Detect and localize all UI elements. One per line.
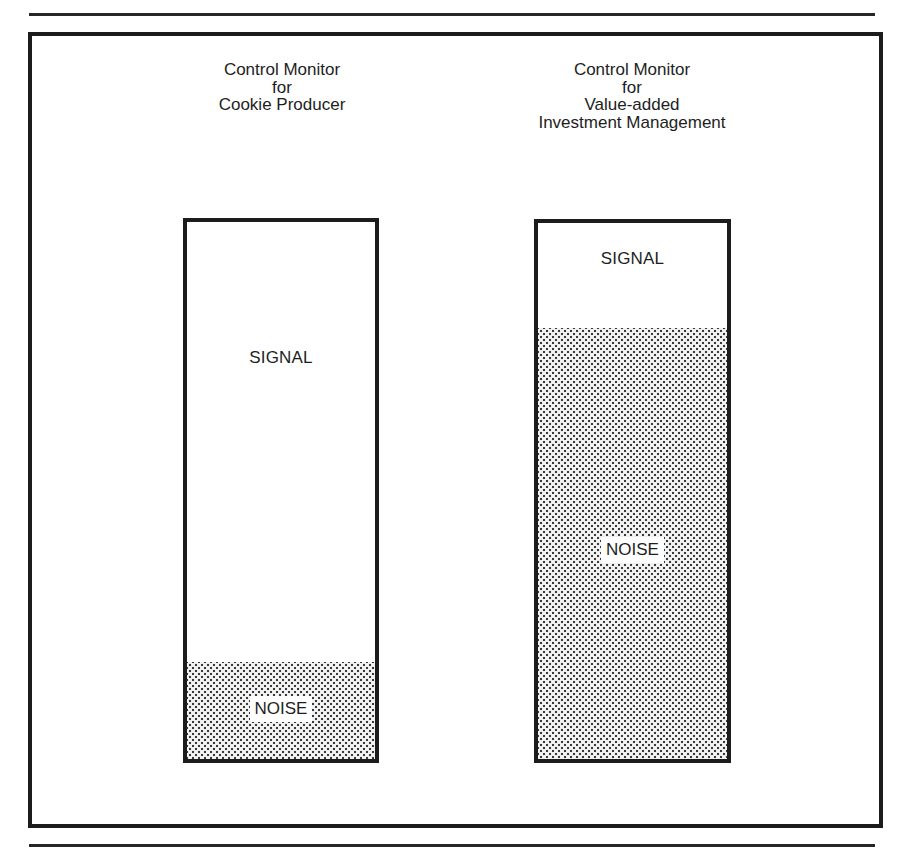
- heading-line: Control Monitor: [172, 61, 392, 79]
- signal-label: SIGNAL: [187, 348, 375, 368]
- noise-label: NOISE: [250, 696, 313, 722]
- heading-line: Cookie Producer: [172, 96, 392, 114]
- heading-line: Investment Management: [472, 114, 792, 132]
- noise-segment: NOISE: [187, 662, 375, 759]
- heading-line: Control Monitor: [472, 61, 792, 79]
- heading-line: Value-added: [472, 96, 792, 114]
- noise-segment: NOISE: [538, 328, 727, 759]
- noise-label: NOISE: [601, 537, 664, 563]
- investment-monitor-bar: SIGNAL NOISE: [534, 219, 731, 763]
- figure-frame: [28, 32, 883, 828]
- cookie-monitor-bar: SIGNAL NOISE: [183, 218, 379, 763]
- top-rule: [29, 13, 875, 16]
- signal-label: SIGNAL: [538, 249, 727, 269]
- cookie-monitor-heading: Control Monitor for Cookie Producer: [172, 61, 392, 114]
- investment-monitor-heading: Control Monitor for Value-added Investme…: [472, 61, 792, 131]
- heading-line: for: [472, 79, 792, 97]
- bottom-rule: [29, 844, 875, 847]
- heading-line: for: [172, 79, 392, 97]
